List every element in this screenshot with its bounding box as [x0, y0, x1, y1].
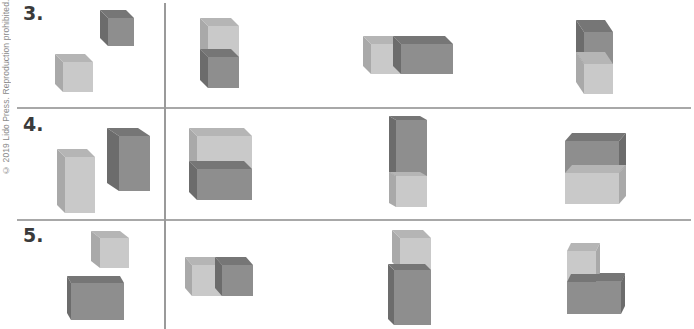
block-side-face: [388, 264, 394, 325]
block-side-face: [389, 116, 396, 176]
block-side-face: [389, 172, 396, 207]
problem-4-given-figures: [57, 128, 150, 213]
block-front-face: [222, 265, 253, 296]
block-top-face: [596, 273, 625, 281]
block-top-face: [393, 36, 453, 44]
block-top-face: [67, 276, 124, 283]
block-front-face: [567, 282, 621, 314]
block-front-face: [119, 136, 150, 191]
block-top-face: [388, 264, 431, 270]
problem-3-option-a[interactable]: [200, 18, 239, 88]
problem-5-given-figures: [67, 231, 129, 320]
block-front-face: [596, 281, 621, 282]
block-top-face: [567, 243, 600, 251]
block-front-face: [108, 18, 134, 46]
problem-4-option-a[interactable]: [189, 128, 252, 200]
block-top-face: [565, 165, 626, 173]
problem-5-option-a[interactable]: [185, 257, 253, 296]
problem-3-option-b[interactable]: [363, 36, 453, 74]
block-front-face: [401, 44, 453, 74]
problem-5-option-c[interactable]: [567, 243, 625, 314]
block-side-face: [67, 276, 71, 320]
block-front-face: [396, 120, 427, 176]
block-top-face: [189, 128, 252, 136]
block-side-face: [57, 149, 65, 213]
block-top-face: [565, 133, 626, 141]
block-front-face: [63, 62, 93, 92]
problem-3-given-figures: [55, 10, 134, 92]
block-front-face: [394, 270, 431, 325]
block-front-face: [197, 169, 252, 200]
block-front-face: [100, 238, 129, 268]
block-front-face: [71, 283, 124, 320]
block-front-face: [65, 157, 95, 213]
problem-4-option-c[interactable]: [565, 133, 626, 204]
block-front-face: [584, 64, 613, 94]
problem-3-option-c[interactable]: [576, 20, 613, 94]
problem-4-option-b[interactable]: [389, 116, 427, 207]
figures-canvas: [0, 0, 694, 329]
block-front-face: [565, 173, 619, 204]
block-front-face: [208, 57, 239, 88]
block-front-face: [396, 176, 427, 207]
block-top-face: [189, 161, 252, 169]
problem-5-option-b[interactable]: [388, 230, 431, 325]
block-side-face: [107, 128, 119, 191]
